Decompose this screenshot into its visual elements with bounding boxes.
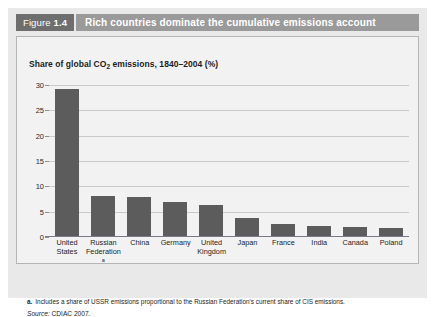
chart-subtitle-subscript: 2 bbox=[106, 63, 110, 70]
bar-japan[interactable] bbox=[235, 218, 259, 237]
x-label-line2: States bbox=[50, 248, 84, 257]
figure-title-bar: Rich countries dominate the cumulative e… bbox=[76, 14, 419, 31]
bar-slot bbox=[229, 85, 265, 237]
x-label-line2: Federation a bbox=[86, 248, 121, 269]
x-label-line1: Japan bbox=[231, 239, 265, 248]
figure-header: Figure1.4 Rich countries dominate the cu… bbox=[16, 14, 419, 31]
x-label-japan: Japan bbox=[230, 239, 266, 268]
y-tick-label-30: 30 bbox=[36, 81, 44, 90]
figure-number: 1.4 bbox=[54, 17, 68, 28]
footnote-marker: a. bbox=[27, 298, 32, 305]
bar-china[interactable] bbox=[127, 197, 151, 237]
x-axis-labels: UnitedStatesRussianFederation aChinaGerm… bbox=[49, 239, 409, 268]
bar-slot bbox=[301, 85, 337, 237]
y-tick-label-10: 10 bbox=[36, 182, 44, 191]
source-value: CDIAC 2007. bbox=[52, 310, 91, 317]
x-label-line1: Canada bbox=[338, 239, 372, 248]
footnote: a.Includes a share of USSR emissions pro… bbox=[27, 298, 345, 305]
x-label-united-kingdom: UnitedKingdom bbox=[194, 239, 230, 268]
y-tick-label-15: 15 bbox=[36, 157, 44, 166]
y-tick-label-20: 20 bbox=[36, 131, 44, 140]
chart-card: Share of global CO2 emissions, 1840–2004… bbox=[16, 36, 419, 264]
x-label-line1: Poland bbox=[374, 239, 408, 248]
bar-slot bbox=[85, 85, 121, 237]
bar-united-kingdom[interactable] bbox=[199, 205, 223, 237]
bar-united-states[interactable] bbox=[55, 89, 79, 237]
bars-layer bbox=[49, 85, 409, 237]
x-label-line1: India bbox=[302, 239, 336, 248]
bar-russian-federation[interactable] bbox=[91, 196, 115, 237]
source-line: Source: CDIAC 2007. bbox=[27, 310, 90, 317]
source-label: Source: bbox=[27, 310, 50, 317]
x-label-canada: Canada bbox=[337, 239, 373, 268]
y-tick-label-5: 5 bbox=[40, 207, 44, 216]
figure-number-tab: Figure1.4 bbox=[16, 14, 74, 31]
bar-slot bbox=[49, 85, 85, 237]
bar-slot bbox=[337, 85, 373, 237]
bar-slot bbox=[193, 85, 229, 237]
x-label-france: France bbox=[265, 239, 301, 268]
x-axis-line bbox=[45, 236, 409, 237]
figure-label-word: Figure bbox=[23, 17, 51, 28]
figure-panel: Figure1.4 Rich countries dominate the cu… bbox=[8, 8, 427, 298]
x-label-united-states: UnitedStates bbox=[49, 239, 85, 268]
x-label-line1: Germany bbox=[159, 239, 193, 248]
x-label-germany: Germany bbox=[158, 239, 194, 268]
y-tick-label-0: 0 bbox=[40, 233, 44, 242]
plot-area: 051015202530 bbox=[49, 85, 409, 237]
x-label-line1: China bbox=[123, 239, 157, 248]
x-label-line1: France bbox=[266, 239, 300, 248]
bar-slot bbox=[373, 85, 409, 237]
x-label-china: China bbox=[122, 239, 158, 268]
bar-slot bbox=[157, 85, 193, 237]
y-tick-mark-0 bbox=[45, 237, 49, 238]
bar-germany[interactable] bbox=[163, 202, 187, 237]
chart-subtitle-prefix: Share of global CO bbox=[29, 59, 106, 69]
x-label-footnote-mark: a bbox=[102, 257, 105, 263]
bar-slot bbox=[121, 85, 157, 237]
footnote-text: Includes a share of USSR emissions propo… bbox=[35, 298, 345, 305]
x-label-line2: Kingdom bbox=[195, 248, 229, 257]
x-label-russian-federation: RussianFederation a bbox=[85, 239, 122, 268]
x-label-poland: Poland bbox=[373, 239, 409, 268]
bar-slot bbox=[265, 85, 301, 237]
x-label-india: India bbox=[301, 239, 337, 268]
y-tick-label-25: 25 bbox=[36, 106, 44, 115]
figure-title-text: Rich countries dominate the cumulative e… bbox=[85, 17, 376, 28]
chart-subtitle: Share of global CO2 emissions, 1840–2004… bbox=[29, 59, 218, 69]
chart-subtitle-suffix: emissions, 1840–2004 (%) bbox=[110, 59, 218, 69]
